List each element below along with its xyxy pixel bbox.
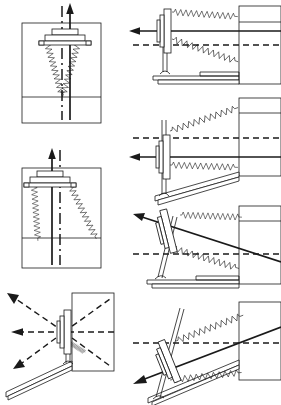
technical-diagram: Spring-loaded tilting launcher mechanism… [0, 0, 281, 405]
frame-block [239, 206, 281, 284]
diagram-canvas: Spring-loaded tilting launcher mechanism… [0, 0, 281, 405]
frame-block [239, 98, 281, 176]
